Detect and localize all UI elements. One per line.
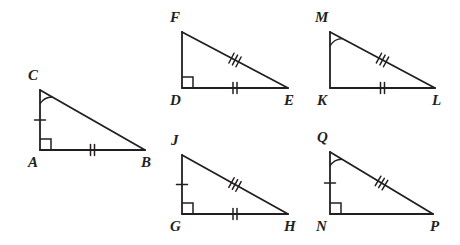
triangle-CAB-vertex-label-C: C — [28, 67, 39, 83]
triangle-JGH-vertex-label-J: J — [170, 132, 179, 148]
triangles-layer: CABFDEMKLJGHQNP — [27, 9, 441, 234]
triangle-MKL-apex-angle-arc-icon — [330, 39, 342, 46]
triangle-MKL: MKL — [314, 9, 441, 108]
triangle-MKL-vertex-label-K: K — [316, 92, 328, 108]
triangle-FDE: FDE — [169, 9, 294, 108]
triangle-JGH-vertex-label-H: H — [283, 218, 297, 234]
triangle-CAB-right-angle-icon — [40, 139, 51, 150]
triangle-JGH: JGH — [170, 132, 297, 234]
triangle-CAB-vertex-label-B: B — [140, 154, 151, 170]
geometry-figure-container: CABFDEMKLJGHQNP — [0, 0, 460, 245]
congruent-triangles-figure: CABFDEMKLJGHQNP — [0, 0, 460, 245]
triangle-FDE-vertex-label-E: E — [283, 92, 294, 108]
triangle-FDE-vertex-label-F: F — [169, 9, 180, 25]
triangle-QNP-vertex-label-Q: Q — [317, 129, 328, 145]
triangle-CAB-vertex-label-A: A — [27, 154, 38, 170]
triangle-CAB: CAB — [27, 67, 151, 170]
triangle-JGH-vertex-label-G: G — [170, 218, 181, 234]
triangle-CAB-hypotenuse-side — [40, 90, 145, 150]
triangle-CAB-apex-angle-arc-icon — [40, 97, 52, 104]
triangle-QNP-right-angle-icon — [330, 203, 341, 214]
triangle-MKL-vertex-label-M: M — [314, 9, 329, 25]
triangle-QNP-apex-angle-arc-icon — [330, 159, 342, 166]
triangle-QNP-vertex-label-N: N — [315, 218, 328, 234]
triangle-FDE-vertex-label-D: D — [169, 92, 181, 108]
triangle-QNP-vertex-label-P: P — [430, 218, 440, 234]
triangle-QNP: QNP — [315, 129, 440, 234]
triangle-FDE-right-angle-icon — [182, 77, 193, 88]
triangle-JGH-right-angle-icon — [182, 203, 193, 214]
triangle-MKL-vertex-label-L: L — [431, 92, 441, 108]
